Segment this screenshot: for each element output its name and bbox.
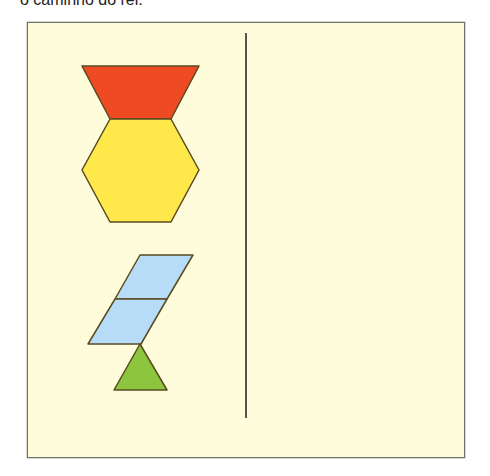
green-triangle — [114, 344, 167, 390]
red-trapezoid — [82, 66, 199, 119]
pattern-block-figure — [82, 66, 199, 390]
blue-rhombus-upper — [115, 255, 193, 299]
blue-rhombus-lower — [88, 299, 167, 344]
shapes-canvas — [0, 0, 490, 476]
yellow-hexagon — [82, 119, 199, 222]
